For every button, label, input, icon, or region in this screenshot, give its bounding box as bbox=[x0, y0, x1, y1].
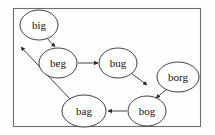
node-bog[interactable]: bog bbox=[128, 96, 166, 126]
node-borg[interactable]: borg bbox=[157, 62, 199, 92]
graph-svg: big beg bug borg bog bag bbox=[0, 0, 215, 135]
edge-bug-bog bbox=[131, 73, 147, 85]
nodes-layer: big beg bug borg bog bag bbox=[20, 10, 199, 127]
node-big[interactable]: big bbox=[20, 10, 58, 40]
edge-big-beg bbox=[47, 38, 55, 47]
node-bug-label: bug bbox=[110, 57, 127, 69]
node-big-label: big bbox=[32, 19, 47, 31]
node-borg-label: borg bbox=[168, 71, 188, 83]
diagram-canvas: big beg bug borg bog bag bbox=[0, 0, 215, 135]
node-bag-label: bag bbox=[76, 105, 92, 117]
edge-borg-bog bbox=[156, 89, 167, 98]
node-beg[interactable]: beg bbox=[39, 48, 77, 78]
node-bog-label: bog bbox=[139, 105, 156, 117]
node-bug[interactable]: bug bbox=[99, 48, 137, 78]
node-bag[interactable]: bag bbox=[62, 95, 106, 127]
node-beg-label: beg bbox=[50, 57, 66, 69]
